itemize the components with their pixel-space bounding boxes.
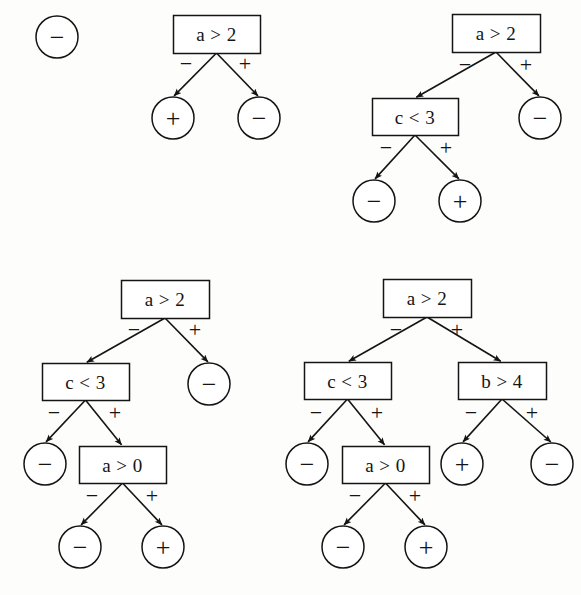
edge-label: + <box>109 402 121 424</box>
tree-edge <box>349 317 427 361</box>
tree-edge <box>416 52 496 97</box>
edge-label: + <box>451 319 463 341</box>
edge-label: − <box>180 53 192 75</box>
minus-icon: − <box>367 189 382 215</box>
minus-icon: − <box>545 452 560 478</box>
tree-edge <box>165 318 208 362</box>
edge-label: + <box>440 137 452 159</box>
minus-icon: − <box>336 535 351 561</box>
plus-icon: + <box>455 452 470 478</box>
tree-edge <box>496 52 539 96</box>
decision-node-label: a > 2 <box>407 288 448 310</box>
tree-edge <box>427 317 501 361</box>
edge-label: − <box>349 485 361 507</box>
minus-icon: − <box>38 452 53 478</box>
decision-node-label: a > 2 <box>196 24 237 46</box>
decision-node-label: a > 0 <box>102 455 143 477</box>
edge-label: − <box>48 402 60 424</box>
minus-icon: − <box>202 372 217 398</box>
edge-label: − <box>390 319 402 341</box>
edge-label: − <box>128 319 140 341</box>
edge-label: + <box>409 485 421 507</box>
nodes-layer <box>24 15 573 569</box>
decision-node-label: c < 3 <box>395 107 436 129</box>
decision-tree-figure: −−+a > 2+−−+−+a > 2c < 3−−+−+−+−+a > 2c … <box>0 0 581 595</box>
edge-label: + <box>189 319 201 341</box>
tree-edge <box>87 318 165 362</box>
plus-icon: + <box>156 535 171 561</box>
edge-label: − <box>310 402 322 424</box>
plus-icon: + <box>453 189 468 215</box>
decision-node-label: a > 0 <box>365 455 406 477</box>
edge-label: + <box>146 485 158 507</box>
edge-label: − <box>380 137 392 159</box>
edge-label: − <box>86 485 98 507</box>
edge-label: + <box>239 53 251 75</box>
minus-icon: − <box>533 106 548 132</box>
edge-label: + <box>371 402 383 424</box>
minus-icon: − <box>300 452 315 478</box>
edge-label: + <box>520 54 532 76</box>
decision-node-label: a > 2 <box>145 289 186 311</box>
plus-icon: + <box>419 535 434 561</box>
plus-icon: + <box>166 106 181 132</box>
tree-edge <box>217 53 258 96</box>
tree-edge <box>415 135 459 179</box>
edge-label: + <box>526 402 538 424</box>
decision-node-label: c < 3 <box>327 371 368 393</box>
minus-icon: − <box>73 535 88 561</box>
decision-node-label: a > 2 <box>476 23 517 45</box>
edge-label: − <box>459 54 471 76</box>
edge-label: − <box>465 402 477 424</box>
decision-node-label: b > 4 <box>481 371 523 393</box>
minus-icon: − <box>50 25 65 51</box>
decision-node-label: c < 3 <box>65 372 106 394</box>
minus-icon: − <box>252 106 267 132</box>
